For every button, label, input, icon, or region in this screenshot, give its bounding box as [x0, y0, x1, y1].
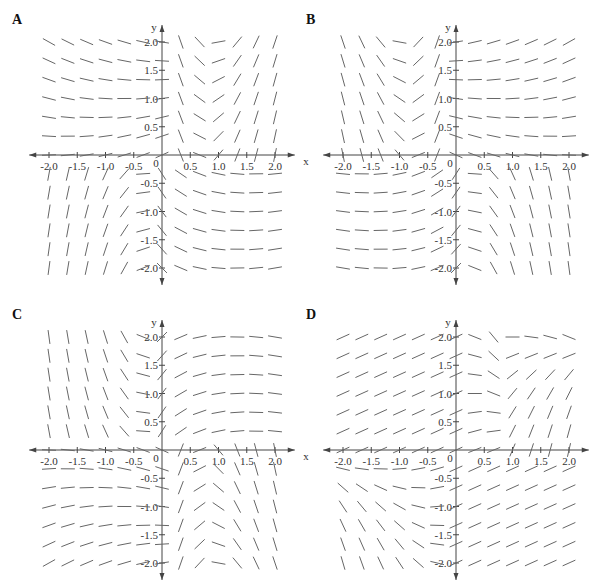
slope-segment	[234, 500, 241, 512]
slope-segment	[336, 267, 350, 269]
slope-segment	[66, 424, 69, 438]
slope-segment	[99, 561, 112, 566]
slope-segment	[175, 409, 187, 416]
slope-segment	[118, 561, 131, 565]
slope-segment	[175, 371, 187, 378]
slope-segment	[568, 186, 570, 200]
slope-segment	[273, 481, 276, 495]
slope-segment	[487, 504, 500, 510]
slope-segment	[80, 98, 94, 100]
slope-segment	[524, 98, 538, 100]
slope-segment	[487, 522, 500, 528]
slope-segment	[360, 111, 364, 124]
slope-segment	[85, 406, 89, 419]
slope-segment	[430, 543, 444, 545]
slope-segment	[431, 189, 443, 196]
slope-segment	[563, 560, 576, 566]
slope-segment	[268, 374, 282, 376]
slope-segment	[42, 487, 56, 489]
slope-segment	[393, 41, 407, 44]
slope-segment	[249, 211, 263, 212]
slope-segment	[431, 246, 444, 252]
arrow-left-icon	[323, 153, 330, 158]
slope-segment	[336, 173, 350, 174]
panel-d: D xy0-2.0-1.5-1.0-0.50.51.01.52.02.01.51…	[294, 295, 589, 580]
slope-segment	[374, 211, 388, 212]
slope-segment	[412, 353, 425, 359]
slope-segment	[61, 58, 74, 63]
slope-segment	[42, 77, 55, 82]
slope-segment	[268, 430, 282, 431]
slope-segment	[563, 522, 576, 528]
slope-segment	[268, 267, 282, 269]
y-tick-label: -1.5	[141, 234, 159, 246]
slope-segment	[48, 349, 50, 363]
slope-segment	[117, 525, 131, 526]
slope-segment	[377, 55, 385, 66]
slope-segment	[121, 350, 128, 362]
slope-segment	[506, 541, 519, 547]
slope-segment	[62, 560, 75, 566]
slope-segment	[565, 369, 574, 380]
slope-segment	[268, 192, 282, 194]
slope-segment	[355, 334, 368, 340]
slope-segment	[178, 73, 183, 86]
slope-field-b: xy0-2.0-1.5-1.0-0.50.51.01.52.02.01.51.0…	[294, 0, 589, 285]
slope-segment	[544, 504, 557, 510]
slope-segment	[543, 97, 557, 100]
slope-segment	[155, 79, 169, 80]
slope-segment	[233, 37, 242, 48]
y-axis-label: y	[151, 316, 157, 328]
slope-segment	[510, 205, 515, 218]
slope-segment	[249, 393, 263, 394]
slope-segment	[179, 35, 184, 48]
slope-segment	[67, 261, 69, 275]
slope-segment	[254, 481, 258, 494]
slope-segment	[562, 116, 576, 118]
arrow-up-icon	[454, 320, 459, 327]
slope-segment	[249, 249, 263, 250]
slope-segment	[468, 116, 482, 118]
x-tick-label: 2.0	[562, 160, 576, 172]
slope-segment	[48, 387, 50, 401]
x-tick-label: -1.5	[69, 160, 87, 172]
slope-segment	[549, 167, 552, 181]
slope-segment	[506, 117, 520, 118]
slope-segment	[253, 538, 258, 551]
slope-segment	[118, 40, 131, 44]
slope-segment	[178, 54, 183, 67]
slope-segment	[230, 211, 244, 212]
slope-segment	[117, 543, 131, 546]
slope-segment	[195, 539, 205, 549]
x-tick-label: -2.0	[334, 455, 352, 467]
slope-segment	[80, 542, 93, 546]
slope-segment	[234, 519, 241, 531]
slope-segment	[430, 467, 443, 471]
slope-segment	[431, 353, 444, 359]
slope-segment	[547, 406, 552, 419]
slope-segment	[548, 425, 552, 438]
slope-segment	[567, 424, 571, 437]
slope-segment	[562, 97, 576, 101]
y-tick-label: 1.5	[438, 359, 452, 371]
slope-segment	[80, 468, 94, 469]
slope-segment	[268, 211, 282, 213]
slope-segment	[563, 334, 576, 339]
slope-segment	[268, 229, 282, 231]
slope-segment	[411, 468, 425, 471]
slope-segment	[341, 54, 345, 67]
x-tick-label: -1.5	[363, 160, 381, 172]
y-axis-label: y	[445, 316, 451, 328]
slope-segment	[378, 130, 384, 143]
slope-segment	[341, 111, 344, 125]
x-tick-label: 1.0	[506, 455, 520, 467]
slope-segment	[48, 330, 50, 344]
slope-segment	[358, 519, 365, 531]
slope-segment	[99, 40, 112, 45]
slope-segment	[525, 504, 538, 510]
slope-segment	[103, 224, 108, 237]
x-tick-label: -0.5	[125, 455, 143, 467]
x-tick-label: 1.5	[534, 455, 548, 467]
slope-segment	[85, 424, 89, 437]
slope-segment	[136, 134, 150, 138]
